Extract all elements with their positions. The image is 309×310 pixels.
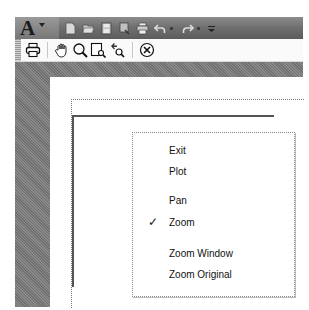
- checkmark-icon: ✓: [133, 215, 165, 229]
- redo-icon[interactable]: [181, 22, 194, 35]
- pan-icon[interactable]: [54, 42, 70, 58]
- menu-item-pan[interactable]: Pan: [133, 191, 294, 209]
- chevron-down-icon: [39, 23, 45, 27]
- menu-item-zoom-original[interactable]: Zoom Original: [133, 265, 294, 283]
- undo-dropdown-icon[interactable]: [170, 27, 173, 30]
- customize-qat-icon[interactable]: [205, 22, 218, 35]
- menu-item-label: Plot: [165, 166, 186, 177]
- toolbar-separator: [132, 42, 133, 58]
- quick-access-toolbar: A: [15, 17, 303, 39]
- zoom-icon[interactable]: [72, 42, 88, 58]
- toolbar-separator: [47, 42, 48, 58]
- menu-item-label: Zoom Original: [165, 269, 232, 280]
- autocad-logo-icon: A: [20, 18, 35, 38]
- print-icon[interactable]: [136, 22, 149, 35]
- menu-item-label: Exit: [165, 145, 186, 156]
- zoom-original-icon[interactable]: [109, 42, 125, 58]
- menu-item-label: Zoom: [165, 217, 195, 228]
- application-menu-button[interactable]: A: [15, 17, 59, 39]
- redo-dropdown-icon[interactable]: [197, 27, 200, 30]
- plot-icon[interactable]: [25, 42, 41, 58]
- save-as-icon[interactable]: [118, 22, 131, 35]
- zoom-window-icon[interactable]: [90, 42, 106, 58]
- undo-icon[interactable]: [154, 22, 167, 35]
- new-icon[interactable]: [64, 22, 77, 35]
- menu-item-exit[interactable]: Exit: [133, 141, 294, 159]
- save-icon[interactable]: [100, 22, 113, 35]
- menu-item-label: Pan: [165, 195, 187, 206]
- menu-item-label: Zoom Window: [165, 248, 233, 259]
- plot-preview-toolbar: [15, 39, 303, 62]
- close-preview-icon[interactable]: [139, 42, 155, 58]
- open-icon[interactable]: [82, 22, 95, 35]
- context-menu: Exit Plot Pan ✓ Zoom Zoom Window Zoom Or…: [132, 132, 295, 297]
- menu-item-zoom[interactable]: ✓ Zoom: [133, 213, 294, 231]
- toolbar-grip[interactable]: [15, 39, 21, 61]
- menu-item-zoom-window[interactable]: Zoom Window: [133, 244, 294, 262]
- menu-item-plot[interactable]: Plot: [133, 162, 294, 180]
